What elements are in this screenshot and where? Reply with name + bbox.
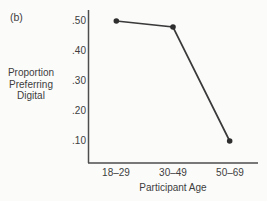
line-chart-figure: (b) Proportion Preferring Digital .50 .4… [0, 0, 267, 201]
data-point [114, 18, 120, 24]
x-tick-label: 50–69 [208, 167, 252, 179]
data-point [227, 138, 233, 144]
data-line [116, 21, 229, 141]
data-point [170, 24, 176, 30]
x-axis-title: Participant Age [88, 182, 258, 194]
x-tick-label: 18–29 [94, 167, 138, 179]
x-tick-label: 30–49 [151, 167, 195, 179]
